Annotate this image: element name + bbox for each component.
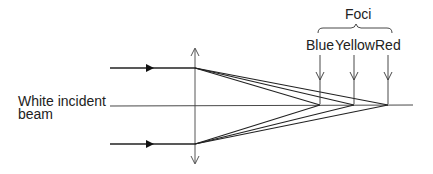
focus-label-red: Red: [375, 37, 401, 53]
incident-beam-top: [110, 64, 195, 72]
focus-arrow-red-icon: [384, 55, 392, 104]
chromatic-aberration-diagram: [0, 0, 433, 174]
focus-label-blue: Blue: [306, 37, 334, 53]
beam-label-line2: beam: [18, 108, 106, 121]
incident-beam-bottom: [110, 140, 195, 148]
foci-brace-icon: [318, 24, 392, 33]
focus-label-yellow: Yellow: [335, 37, 375, 53]
optical-axis: [110, 105, 413, 106]
beam-label: White incident beam: [18, 95, 106, 121]
foci-title: Foci: [345, 6, 371, 22]
focus-arrow-yellow-icon: [350, 55, 358, 104]
